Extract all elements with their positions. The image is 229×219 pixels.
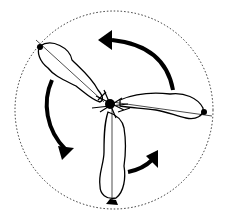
arrow-left-icon xyxy=(47,80,74,160)
diagram-svg xyxy=(0,0,229,219)
feather-right xyxy=(112,93,212,118)
arrow-bottom-right-icon xyxy=(128,150,158,172)
feather-rotation-diagram xyxy=(0,0,229,219)
feather-bottom xyxy=(100,106,126,205)
arrow-top-icon xyxy=(98,30,173,90)
